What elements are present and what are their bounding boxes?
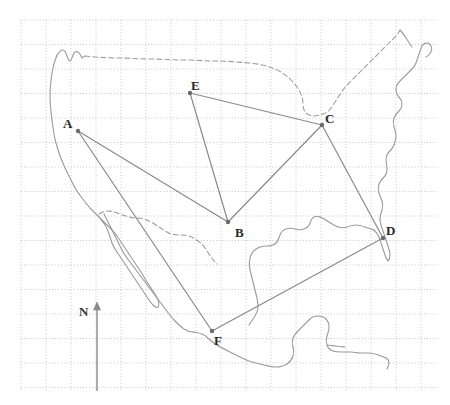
- edge-c-b: [228, 125, 322, 222]
- coastline-layer: [50, 30, 432, 369]
- coast-yucatan: [292, 316, 386, 358]
- compass-layer: [93, 302, 100, 391]
- coast-mexico-southwest: [193, 332, 294, 367]
- map-point-label-d: D: [386, 224, 395, 237]
- map-point-label-c: C: [325, 112, 334, 125]
- edge-a-f: [78, 131, 212, 331]
- compass-north-label: N: [79, 305, 88, 318]
- map-point-d[interactable]: [381, 236, 385, 240]
- compass-arrow-head: [93, 302, 100, 310]
- coast-mexico-east-gulf: [249, 216, 320, 325]
- border-usa-canada: [85, 30, 400, 116]
- map-point-c[interactable]: [320, 123, 324, 127]
- map-point-label-a: A: [63, 117, 72, 130]
- coast-california: [50, 55, 99, 217]
- coast-yucatan-inner: [327, 345, 345, 347]
- edge-c-d: [322, 125, 383, 238]
- map-point-label-f: F: [214, 334, 222, 347]
- coast-baja-california: [99, 217, 159, 307]
- map-point-label-e: E: [191, 79, 200, 92]
- map-figure: ABCDEF N: [0, 0, 450, 405]
- edge-d-f: [212, 238, 383, 331]
- coast-atlantic-southeast: [378, 145, 394, 219]
- map-point-a[interactable]: [76, 129, 80, 133]
- network-edge-layer: [78, 93, 383, 331]
- map-point-b[interactable]: [226, 220, 230, 224]
- map-point-label-b: B: [235, 226, 244, 239]
- grid-layer: [21, 20, 437, 391]
- coast-texas-louisiana: [320, 217, 374, 230]
- network-node-layer: [76, 91, 385, 333]
- border-usa-mexico: [99, 211, 217, 264]
- map-canvas: [0, 0, 450, 405]
